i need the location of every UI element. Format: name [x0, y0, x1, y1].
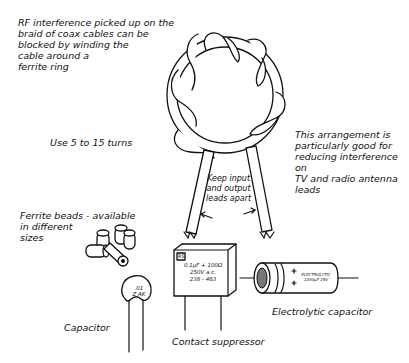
- suppressor-label: Contact suppressor: [172, 336, 264, 347]
- turns-note: Use 5 to 15 turns: [50, 137, 132, 148]
- capacitor-marking: .01 Z AK: [128, 285, 150, 297]
- electrolytic-label: Electrolytic capacitor: [272, 306, 372, 317]
- arrangement-note: This arrangement is particularly good fo…: [295, 129, 409, 195]
- leads-note: Keep input and output leads apart: [206, 174, 251, 204]
- electrolytic-marking: ELECTROLYTIC 2200µF 25V: [296, 272, 336, 282]
- suppressor-brand: RS: [178, 253, 185, 260]
- capacitor-label: Capacitor: [64, 322, 110, 333]
- suppressor-marking: 0.1µF + 100Ω 250V a.c. 238 - 463: [176, 262, 230, 283]
- intro-text: RF interference picked up on the braid o…: [18, 17, 174, 72]
- ferrite-beads-label: Ferrite beads - available in different s…: [20, 210, 135, 243]
